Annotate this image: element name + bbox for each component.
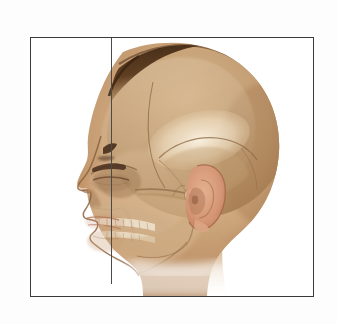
ear-canal	[192, 196, 198, 205]
bottom-fade	[31, 264, 313, 296]
head-anatomy-illustration	[31, 38, 313, 296]
chin	[87, 230, 123, 252]
head-svg	[31, 38, 313, 296]
illustration-frame	[30, 37, 314, 297]
figure-root: Lateral view of human head with skull ov…	[0, 0, 337, 324]
vertical-reference-line	[111, 38, 112, 284]
lips	[85, 214, 125, 230]
